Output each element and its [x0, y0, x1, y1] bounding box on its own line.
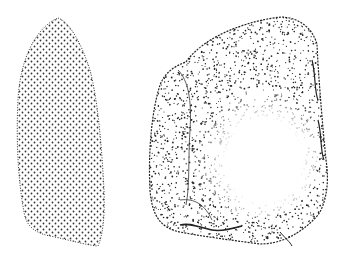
stone-tools-illustration: [0, 0, 343, 258]
right-tool: [140, 10, 340, 250]
left-tool: [17, 18, 104, 246]
